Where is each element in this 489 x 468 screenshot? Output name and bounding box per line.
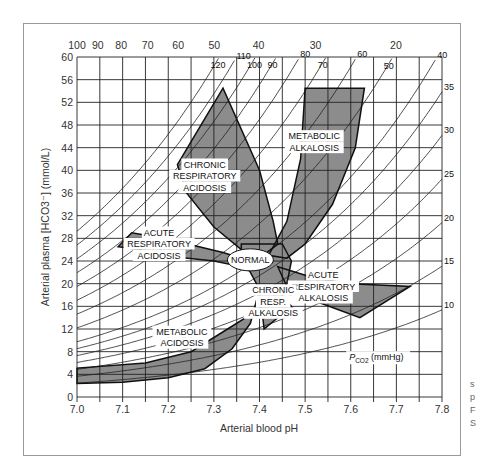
top-tick-label: 60 bbox=[172, 39, 184, 51]
isobar-label-70: 70 bbox=[318, 60, 328, 70]
isobar-label-25: 25 bbox=[444, 169, 454, 179]
isobar-label-60: 60 bbox=[357, 49, 367, 59]
label-text: ACIDOSIS bbox=[160, 338, 203, 348]
pco2-label: PCO2 (mmHg) bbox=[346, 351, 410, 364]
x-tick-label: 7.6 bbox=[343, 403, 358, 415]
y-tick-label: 16 bbox=[61, 300, 73, 312]
x-tick-label: 7.8 bbox=[435, 403, 450, 415]
label-text: CHRONIC bbox=[252, 285, 294, 295]
isobar-label-10: 10 bbox=[444, 300, 454, 310]
normal-marker: NORMAL bbox=[227, 249, 273, 271]
label-chronic-resp-alkalosis: CHRONICRESP.ALKALOSIS bbox=[244, 284, 303, 319]
y-tick-label: 12 bbox=[61, 323, 73, 335]
caption-char: p bbox=[470, 391, 489, 404]
y-tick-label: 44 bbox=[61, 142, 73, 154]
x-tick-label: 7.7 bbox=[389, 403, 404, 415]
isobar-label-20: 20 bbox=[444, 213, 454, 223]
x-tick-label: 7.2 bbox=[161, 403, 176, 415]
caption-char: S bbox=[470, 417, 489, 430]
isobar-label-30: 30 bbox=[444, 125, 454, 135]
y-tick-label: 36 bbox=[61, 187, 73, 199]
y-tick-label: 8 bbox=[67, 346, 73, 358]
label-text: ACUTE bbox=[144, 228, 175, 238]
acid-base-nomogram: 101520253035405060708090100110120 7.07.1… bbox=[0, 0, 489, 468]
isobar-label-35: 35 bbox=[444, 82, 454, 92]
grid-lines bbox=[77, 57, 442, 402]
isobar-label-15: 15 bbox=[444, 256, 454, 266]
top-tick-label: 20 bbox=[390, 39, 402, 51]
label-text: RESPIRATORY bbox=[173, 171, 237, 181]
top-tick-label: 100 bbox=[68, 39, 86, 51]
x-tick-label: 7.5 bbox=[298, 403, 313, 415]
x-tick-label: 7.3 bbox=[207, 403, 222, 415]
top-tick-label: 40 bbox=[253, 39, 265, 51]
x-tick-label: 7.0 bbox=[70, 403, 85, 415]
label-metabolic-acidosis: METABOLICACIDOSIS bbox=[152, 326, 211, 349]
y-tick-label: 20 bbox=[61, 278, 73, 290]
isobar-label-40: 40 bbox=[437, 50, 447, 60]
isobar-label-90: 90 bbox=[267, 60, 277, 70]
y-tick-label: 48 bbox=[61, 119, 73, 131]
y-tick-label: 4 bbox=[67, 368, 73, 380]
label-metabolic-alkalosis: METABOLICALKALOSIS bbox=[285, 130, 344, 153]
y-axis-label: Arterial plasma [HCO3⁻] (mmol/L) bbox=[39, 148, 51, 306]
label-acute-respiratory-acidosis: ACUTERESPIRATORYACIDOSIS bbox=[124, 227, 195, 262]
label-text: ALKALOSIS bbox=[299, 293, 349, 303]
top-tick-label: 70 bbox=[142, 39, 154, 51]
label-text: RESP. bbox=[260, 297, 286, 307]
normal-label: NORMAL bbox=[231, 255, 270, 265]
label-text: RESPIRATORY bbox=[127, 239, 191, 249]
label-text: ACIDOSIS bbox=[183, 183, 226, 193]
caption-char: s bbox=[470, 378, 489, 391]
x-tick-label: 7.4 bbox=[252, 403, 267, 415]
label-text: ALKALOSIS bbox=[248, 308, 298, 318]
x-tick-label: 7.1 bbox=[115, 403, 130, 415]
label-text: ACUTE bbox=[308, 270, 339, 280]
top-tick-label: 80 bbox=[115, 39, 127, 51]
label-text: RESPIRATORY bbox=[292, 282, 356, 292]
label-text: ACIDOSIS bbox=[138, 251, 181, 261]
y-tick-label: 28 bbox=[61, 232, 73, 244]
isobar-label-100: 100 bbox=[247, 60, 262, 70]
y-tick-label: 40 bbox=[61, 164, 73, 176]
isobar-label-120: 120 bbox=[210, 60, 225, 70]
y-tick-label: 60 bbox=[61, 51, 73, 63]
y-tick-label: 32 bbox=[61, 210, 73, 222]
y-tick-label: 56 bbox=[61, 74, 73, 86]
top-tick-label: 30 bbox=[310, 39, 322, 51]
label-text: METABOLIC bbox=[289, 131, 341, 141]
top-tick-label: 90 bbox=[92, 39, 104, 51]
y-tick-label: 24 bbox=[61, 255, 73, 267]
caption-char: F bbox=[470, 404, 489, 417]
y-tick-label: 0 bbox=[67, 391, 73, 403]
label-text: METABOLIC bbox=[156, 327, 208, 337]
label-text: ALKALOSIS bbox=[289, 143, 339, 153]
caption-fragment: spFS bbox=[470, 378, 489, 430]
isobar-label-50: 50 bbox=[384, 61, 394, 71]
top-tick-label: 50 bbox=[209, 39, 221, 51]
isobar-label-110: 110 bbox=[236, 51, 250, 61]
y-tick-label: 52 bbox=[61, 96, 73, 108]
label-text: CHRONIC bbox=[184, 160, 226, 170]
x-axis-label: Arterial blood pH bbox=[220, 422, 298, 434]
